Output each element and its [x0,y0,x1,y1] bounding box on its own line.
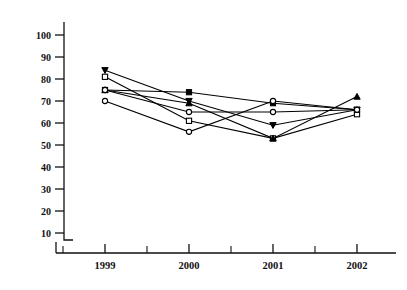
x-tick-label: 2002 [347,260,368,271]
line-chart: 102030405060708090100 1999200020012002 [0,0,407,290]
series-line [105,90,357,112]
x-tick-label: 1999 [95,260,116,271]
x-tick-label: 2001 [263,260,284,271]
y-tick-label: 50 [41,140,51,151]
data-point-marker [186,118,191,123]
data-point-marker [270,109,275,114]
data-point-marker [354,93,360,99]
data-point-marker [186,90,191,95]
data-point-marker [102,87,107,92]
data-point-marker [186,129,191,134]
y-axis: 102030405060708090100 [36,22,73,240]
y-tick-label: 60 [41,118,51,129]
y-tick-label: 70 [41,96,51,107]
y-tick-label: 40 [41,162,51,173]
y-tick-label: 20 [41,206,51,217]
x-tick-label: 2000 [179,260,200,271]
y-tick-label: 90 [41,52,51,63]
y-tick-label: 30 [41,184,51,195]
data-point-marker [102,98,107,103]
data-point-marker [270,98,275,103]
y-axis-spine [64,22,73,240]
y-tick-label: 100 [36,30,51,41]
data-point-marker [270,123,276,129]
y-tick-label: 10 [41,228,51,239]
data-point-marker [102,74,107,79]
x-axis: 1999200020012002 [56,242,396,271]
data-point-marker [354,107,359,112]
data-point-marker [186,109,191,114]
chart-canvas: 102030405060708090100 1999200020012002 [0,0,407,290]
series-line [105,77,357,139]
y-tick-label: 80 [41,74,51,85]
series-layer [105,70,357,138]
